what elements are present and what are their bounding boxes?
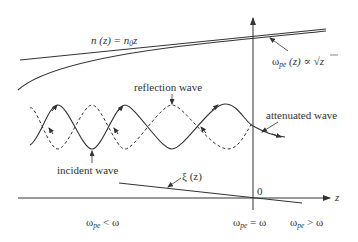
omega-profile-label: ωpe (z) ∝ √z xyxy=(272,55,325,69)
reflection-direction-arrow xyxy=(114,128,118,134)
attenuated-leader xyxy=(262,122,278,132)
xi-label: ξ (z) xyxy=(182,170,202,183)
reflection-direction-arrow xyxy=(201,127,206,133)
origin-label: 0 xyxy=(257,185,263,197)
n-profile-line xyxy=(20,29,326,60)
reflection-wave xyxy=(30,105,253,149)
reflection-wave-label: reflection wave xyxy=(134,81,202,93)
xi-leader xyxy=(168,178,181,187)
region-mid-label: ωpe = ω xyxy=(233,216,266,230)
attenuated-wave-label: attenuated wave xyxy=(266,109,337,121)
reflection-direction-arrow xyxy=(49,128,53,134)
omega-profile-leader xyxy=(270,38,288,51)
incident-wave-label: incident wave xyxy=(57,164,119,176)
wave-reflection-diagram: z 0 n (z) = n0z ωpe (z) ∝ √z reflection … xyxy=(0,0,358,242)
xi-line xyxy=(119,183,302,203)
region-left-label: ωpe < ω xyxy=(86,216,119,230)
incident-wave xyxy=(30,104,285,149)
attenuated-direction-arrow xyxy=(272,134,281,137)
z-axis-label: z xyxy=(334,191,340,203)
region-right-label: ωpe > ω xyxy=(290,216,323,230)
n-profile-label: n (z) = n0z xyxy=(91,34,138,48)
